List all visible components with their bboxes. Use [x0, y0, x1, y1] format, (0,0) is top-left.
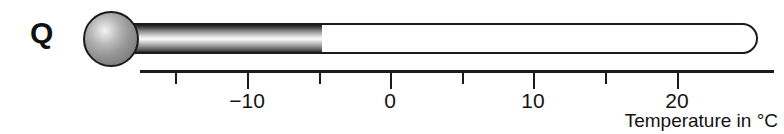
- axis-tick: [390, 73, 392, 89]
- axis-tick: [175, 73, 177, 84]
- axis-tick: [605, 73, 607, 84]
- axis-tick-label: 20: [665, 90, 688, 111]
- axis-tick: [319, 73, 321, 84]
- axis-tick: [247, 73, 249, 89]
- axis-tick-label: 10: [521, 90, 544, 111]
- temperature-axis: −1001020 Temperature in °C: [0, 0, 784, 134]
- axis-tick: [533, 73, 535, 89]
- axis-tick: [677, 73, 679, 89]
- axis-tick-label: 0: [384, 90, 396, 111]
- axis-tick-label: −10: [229, 90, 265, 111]
- axis-tick: [462, 73, 464, 84]
- axis-caption: Temperature in °C: [625, 111, 778, 130]
- thermometer-figure: Q −1001020 Temperature in °C: [0, 0, 784, 134]
